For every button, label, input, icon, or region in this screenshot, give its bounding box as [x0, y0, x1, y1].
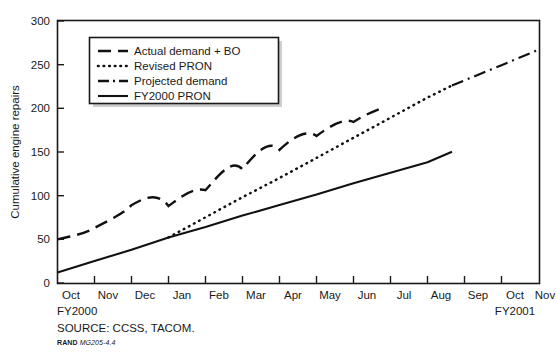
x-tick-label: Aug: [431, 289, 451, 301]
rand-figure-id: MG205-4.4: [80, 339, 116, 346]
x-tick-label: Feb: [209, 289, 229, 301]
x-tick-label: Oct: [506, 289, 525, 301]
y-tick-label: 200: [31, 102, 50, 114]
fiscal-year-label-fy2001: FY2001: [495, 305, 535, 317]
legend: Actual demand + BO Revised PRON Projecte…: [90, 38, 283, 108]
x-axis-tick-labels: Oct Nov Dec Jan Feb Mar Apr May Jun Jul …: [62, 289, 555, 301]
legend-label-actual-demand-bo: Actual demand + BO: [134, 45, 240, 57]
rand-wordmark: RAND: [57, 339, 78, 346]
legend-label-fy2000-pron: FY2000 PRON: [134, 90, 211, 102]
legend-label-projected-demand: Projected demand: [134, 75, 227, 87]
x-tick-label: May: [319, 289, 341, 301]
x-tick-label: Dec: [135, 289, 156, 301]
figure-container: 0 50 100 150 200 250 300 Cumulative engi…: [0, 0, 557, 354]
x-tick-label: Jun: [358, 289, 377, 301]
x-tick-label: Nov: [98, 289, 119, 301]
y-axis-title: Cumulative engine repairs: [9, 85, 21, 219]
source-note: SOURCE: CCSS, TACOM.: [57, 322, 195, 334]
x-tick-label: Apr: [284, 289, 302, 301]
fiscal-year-label-fy2000: FY2000: [57, 305, 97, 317]
x-tick-label: Jul: [397, 289, 412, 301]
y-tick-label: 150: [31, 146, 50, 158]
rand-footer: RANDMG205-4.4: [57, 339, 116, 346]
chart-canvas: 0 50 100 150 200 250 300 Cumulative engi…: [0, 0, 557, 354]
x-tick-label: Jan: [173, 289, 192, 301]
y-tick-label: 250: [31, 59, 50, 71]
y-tick-label: 300: [31, 15, 50, 27]
x-tick-label: Nov: [535, 289, 556, 301]
y-tick-label: 100: [31, 190, 50, 202]
legend-label-revised-pron: Revised PRON: [134, 60, 212, 72]
x-tick-label: Mar: [246, 289, 266, 301]
y-axis-tick-labels: 0 50 100 150 200 250 300: [31, 15, 50, 289]
y-tick-label: 50: [37, 233, 50, 245]
x-tick-label: Oct: [62, 289, 81, 301]
x-tick-label: Sep: [468, 289, 488, 301]
y-tick-label: 0: [44, 277, 50, 289]
